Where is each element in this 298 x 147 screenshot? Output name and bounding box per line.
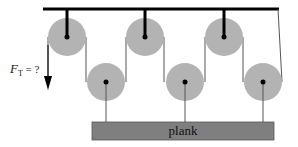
force-arrow-icon xyxy=(44,45,52,90)
force-label: FT = ? xyxy=(9,61,40,78)
bottom-pulley-2 xyxy=(166,63,204,122)
plank-label: plank xyxy=(169,123,198,138)
bottom-pulley-3 xyxy=(244,63,282,122)
top-pulley-1 xyxy=(48,9,86,56)
top-pulley-3 xyxy=(205,9,243,56)
top-pulley-2 xyxy=(126,9,164,56)
diagram-canvas: plank FT = ? xyxy=(0,0,298,147)
bottom-pulley-1 xyxy=(87,63,125,122)
pulley-diagram: plank FT = ? xyxy=(0,0,298,147)
